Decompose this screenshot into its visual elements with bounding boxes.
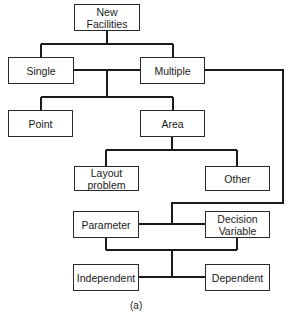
- node-multiple: Multiple: [140, 57, 205, 84]
- node-area: Area: [140, 110, 205, 137]
- node-label: Single: [26, 65, 55, 77]
- node-dependent: Dependent: [205, 264, 270, 291]
- node-label: Dependent: [212, 272, 263, 284]
- node-new-facilities: New Facilities: [74, 4, 140, 31]
- node-label: New Facilities: [75, 6, 139, 30]
- node-parameter: Parameter: [73, 211, 139, 238]
- node-label-line2: Variable: [219, 225, 257, 237]
- node-label: Parameter: [81, 219, 130, 231]
- node-other: Other: [205, 166, 270, 191]
- node-label: Area: [161, 118, 183, 130]
- node-label-line1: Decision: [217, 213, 257, 225]
- node-layout-problem: Layout problem: [74, 166, 139, 191]
- node-label-line2: problem: [88, 179, 126, 191]
- node-decision-variable: Decision Variable: [205, 211, 270, 238]
- node-label: Other: [224, 173, 250, 185]
- node-point: Point: [8, 110, 73, 137]
- node-label-line1: Layout: [91, 167, 123, 179]
- node-independent: Independent: [73, 264, 139, 291]
- node-label: Point: [29, 118, 53, 130]
- node-label: Independent: [77, 272, 135, 284]
- node-single: Single: [8, 57, 74, 84]
- figure-caption: (a): [130, 300, 142, 311]
- node-label: Multiple: [154, 65, 190, 77]
